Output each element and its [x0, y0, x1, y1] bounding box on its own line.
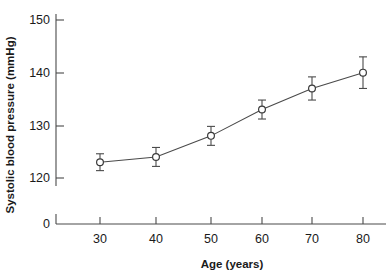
data-series-layer [96, 57, 367, 171]
x-tick-label-50: 50 [204, 232, 218, 246]
data-point-group [152, 147, 160, 166]
x-tick-label-40: 40 [149, 232, 163, 246]
x-tick-label-60: 60 [255, 232, 269, 246]
data-point-group [258, 100, 266, 119]
y-tick-label-150: 150 [29, 13, 50, 27]
data-point-group [308, 77, 316, 100]
data-point-marker [309, 85, 316, 92]
x-tick-group: 30 40 50 60 70 80 [93, 217, 370, 246]
y-tick-group: 150 140 130 120 0 [29, 13, 64, 231]
x-tick-label-30: 30 [93, 232, 107, 246]
x-tick-label-80: 80 [356, 232, 370, 246]
y-axis-title: Systolic blood pressure (mmHg) [4, 36, 16, 213]
data-point-marker [153, 154, 160, 161]
x-axis-title-label: Age (years) [201, 258, 264, 270]
data-point-marker [259, 106, 266, 113]
x-tick-label-70: 70 [305, 232, 319, 246]
data-point-group [96, 154, 104, 171]
data-point-marker [97, 159, 104, 166]
y-tick-label-140: 140 [29, 66, 50, 80]
y-tick-label-120: 120 [29, 171, 50, 185]
chart-canvas: Systolic blood pressure (mmHg) 150 140 1… [0, 0, 390, 277]
y-axis-title-label: Systolic blood pressure (mmHg) [4, 36, 16, 213]
series-polyline [100, 73, 363, 163]
chart-figure: Systolic blood pressure (mmHg) 150 140 1… [0, 0, 390, 277]
data-point-marker [208, 132, 215, 139]
data-point-group [359, 57, 367, 89]
y-tick-label-130: 130 [29, 119, 50, 133]
data-point-group [207, 126, 215, 145]
y-tick-label-0: 0 [43, 217, 50, 231]
data-point-marker [360, 69, 367, 76]
